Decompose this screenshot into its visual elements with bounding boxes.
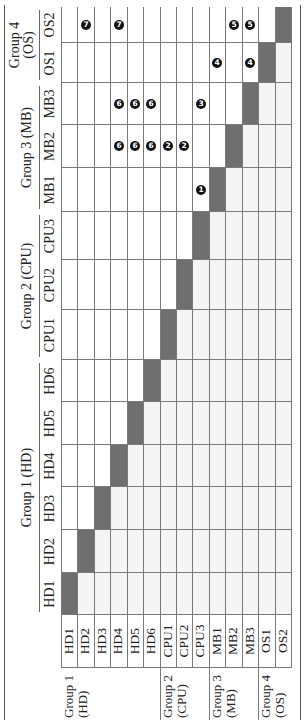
row-group-header: Group 2 (CPU) [161,668,189,718]
matrix-cell [143,212,159,260]
matrix-cell [258,402,274,445]
row-divider [242,7,243,668]
matrix-cell [242,445,258,487]
matrix-cell [94,125,110,168]
matrix-cell [127,212,143,260]
diagonal-cell [225,125,241,168]
matrix-cell [160,260,176,310]
matrix-cell [143,168,159,212]
diagonal-cell [143,360,159,402]
matrix-cell [77,487,93,530]
matrix-cell [176,487,192,530]
row-divider [143,7,144,668]
matrix-cell [258,360,274,402]
matrix-cell [225,530,241,573]
matrix-cell [258,530,274,573]
matrix-cell [94,43,110,83]
matrix-cell [176,573,192,615]
matrix-cell [94,212,110,260]
matrix-cell [192,360,208,402]
matrix-cell [127,310,143,360]
row-header: MB2 [225,616,241,666]
matrix-cell [61,7,77,43]
matrix-cell [94,260,110,310]
group-underline [39,10,40,80]
matrix-cell [225,310,241,360]
matrix-cell [143,310,159,360]
matrix-cell [225,43,241,83]
numbered-marker: 1 [196,185,206,195]
matrix-cell [258,7,274,43]
diagonal-cell [192,212,208,260]
matrix-cell [258,83,274,125]
matrix-cell [143,445,159,487]
matrix-cell [77,360,93,402]
column-header: HD2 [42,530,58,573]
numbered-marker: 7 [114,20,124,30]
matrix-cell [160,168,176,212]
matrix-cell [242,168,258,212]
row-header: CPU2 [176,616,192,666]
diagonal-cell [110,445,126,487]
column-header: MB3 [42,83,58,125]
matrix-cell [143,487,159,530]
row-header: OS2 [275,616,291,666]
row-divider [209,7,210,668]
matrix-cell [77,168,93,212]
row-divider [110,7,111,668]
matrix-cell [258,445,274,487]
matrix-cell [110,310,126,360]
row-group-header: Group 4 (OS) [259,668,287,718]
matrix-cell [275,83,291,125]
matrix-cell [192,402,208,445]
row-divider [291,7,292,668]
column-header: CPU2 [42,260,58,310]
matrix-cell [176,7,192,43]
matrix-cell [242,260,258,310]
matrix-cell [110,260,126,310]
matrix-cell [225,402,241,445]
matrix-cell [94,168,110,212]
column-group-header: Group 1 (HD) [20,363,34,612]
row-divider [258,7,259,668]
diagonal-cell [275,7,291,43]
numbered-marker: 4 [245,58,255,68]
matrix-cell [275,573,291,615]
matrix-cell [275,168,291,212]
matrix-cell [127,530,143,573]
matrix-cell [209,530,225,573]
matrix-cell [209,310,225,360]
matrix-cell [209,7,225,43]
column-header: CPU3 [42,212,58,260]
matrix-cell [176,445,192,487]
row-divider [94,7,95,668]
matrix-cell [160,43,176,83]
matrix-cell [209,260,225,310]
matrix-cell [225,487,241,530]
row-header: HD3 [94,616,110,666]
matrix-cell [61,260,77,310]
matrix-cell [275,43,291,83]
matrix-cell [176,168,192,212]
group-underline [39,363,40,612]
matrix-cell [61,125,77,168]
matrix-cell [127,7,143,43]
matrix-cell [61,310,77,360]
matrix-cell [275,487,291,530]
row-divider [275,7,276,668]
matrix-cell [258,125,274,168]
matrix-cell [160,83,176,125]
row-divider [176,7,177,668]
column-header: HD6 [42,360,58,402]
matrix-cell [110,360,126,402]
matrix-cell [61,43,77,83]
column-group-header: Group 4 (OS) [8,10,36,80]
matrix-cell [225,83,241,125]
matrix-cell [160,7,176,43]
matrix-cell [192,487,208,530]
matrix-cell [94,310,110,360]
group-underline [39,86,40,209]
matrix-cell [209,212,225,260]
matrix-cell [275,125,291,168]
matrix-cell [61,487,77,530]
